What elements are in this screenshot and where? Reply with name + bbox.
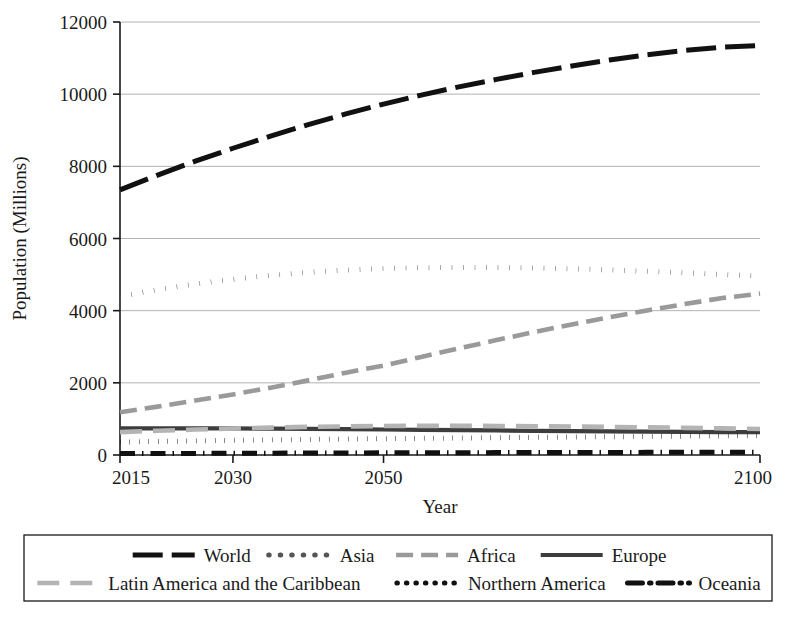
series-line-northern-america — [120, 436, 760, 442]
y-tick-label: 8000 — [69, 156, 107, 177]
chart-svg: 0200040006000800010000120002015203020502… — [0, 0, 795, 636]
x-tick-label: 2015 — [112, 467, 150, 488]
legend-label: Latin America and the Caribbean — [108, 573, 361, 594]
y-tick-label: 2000 — [69, 373, 107, 394]
y-tick-label: 0 — [98, 445, 108, 466]
series-line-asia — [120, 267, 760, 296]
legend-label: Europe — [612, 545, 667, 566]
series-line-world — [120, 45, 760, 189]
legend-label: Asia — [340, 545, 375, 566]
legend-label: World — [204, 545, 252, 566]
series-group — [120, 45, 760, 453]
legend-label: Africa — [467, 545, 516, 566]
x-axis: 2015203020502100 — [112, 455, 772, 488]
series-line-africa — [120, 294, 760, 413]
series-line-oceania — [120, 452, 760, 453]
population-projection-chart: 0200040006000800010000120002015203020502… — [0, 0, 795, 636]
y-tick-label: 12000 — [60, 12, 108, 33]
y-axis: 020004000600080001000012000 — [60, 12, 121, 466]
x-tick-label: 2100 — [734, 467, 772, 488]
x-tick-label: 2030 — [214, 467, 252, 488]
y-tick-label: 10000 — [60, 84, 108, 105]
y-axis-title: Population (Millions) — [9, 156, 31, 320]
legend-label: Oceania — [699, 573, 762, 594]
legend-label: Northern America — [468, 573, 606, 594]
y-tick-label: 6000 — [69, 229, 107, 250]
y-tick-label: 4000 — [69, 301, 107, 322]
x-axis-title: Year — [422, 496, 458, 517]
x-tick-label: 2050 — [365, 467, 403, 488]
gridlines — [120, 22, 760, 383]
